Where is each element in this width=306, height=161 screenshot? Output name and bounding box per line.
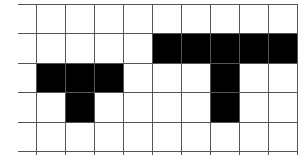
grid-line-horizontal bbox=[18, 151, 298, 152]
grid-line-vertical bbox=[36, 4, 37, 155]
filled-cell bbox=[210, 92, 240, 123]
grid-line-vertical bbox=[239, 4, 240, 155]
filled-cell bbox=[65, 92, 95, 123]
grid-line-vertical bbox=[65, 4, 66, 155]
grid-line-vertical bbox=[268, 4, 269, 155]
filled-cell bbox=[239, 33, 269, 64]
grid-line-vertical bbox=[181, 4, 182, 155]
grid-line-vertical bbox=[210, 4, 211, 155]
filled-cell bbox=[94, 63, 124, 93]
filled-cell bbox=[210, 33, 240, 64]
filled-cell bbox=[152, 33, 182, 64]
grid-line-vertical bbox=[123, 4, 124, 155]
grid-line-horizontal bbox=[18, 33, 298, 34]
filled-cell bbox=[36, 63, 66, 93]
grid-line-vertical bbox=[152, 4, 153, 155]
grid-line-horizontal bbox=[18, 4, 298, 5]
filled-cell bbox=[181, 33, 211, 64]
grid-line-horizontal bbox=[18, 63, 298, 64]
grid-line-horizontal bbox=[18, 92, 298, 93]
filled-cell bbox=[65, 63, 95, 93]
grid-line-vertical bbox=[94, 4, 95, 155]
grid-line-horizontal bbox=[18, 122, 298, 123]
filled-cell bbox=[268, 33, 298, 64]
grid-line-vertical bbox=[297, 4, 298, 155]
grid-diagram bbox=[0, 0, 306, 161]
filled-cell bbox=[210, 63, 240, 93]
